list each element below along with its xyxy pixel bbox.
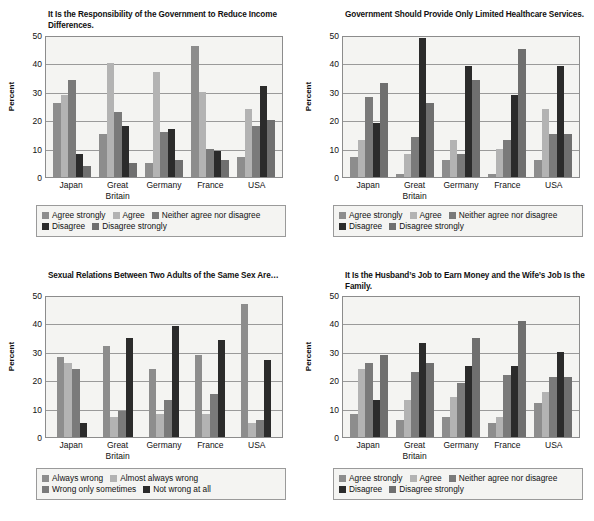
plot-area-wrapper: Percent01020304050JapanGreat BritainGerm… (0, 296, 297, 456)
bar (419, 343, 427, 437)
bar (68, 80, 76, 177)
legend-item: Disagree (339, 484, 382, 494)
bar-group (57, 297, 87, 437)
bar (465, 66, 473, 177)
bar-groups (343, 297, 579, 437)
legend-item: Disagree strongly (92, 221, 167, 231)
legend-item: Agree (410, 473, 442, 483)
bar (488, 423, 496, 437)
chart-figure-grid: It Is the Responsibility of the Governme… (0, 0, 594, 521)
legend-label: Wrong only sometimes (52, 484, 136, 494)
chart-legend: Agree stronglyAgreeNeither agree nor dis… (36, 205, 286, 237)
bar (534, 160, 542, 177)
bar (199, 92, 207, 177)
bar (450, 397, 458, 437)
bar (442, 417, 450, 437)
bar (241, 304, 249, 437)
bar-groups (343, 37, 579, 177)
x-tick-label: Japan (48, 440, 94, 461)
bar (411, 372, 419, 437)
bar (350, 414, 358, 437)
x-tick-label: Great Britain (95, 440, 141, 461)
legend-label: Agree strongly (349, 473, 403, 483)
legend-label: Disagree (349, 484, 382, 494)
y-axis-label: Percent (304, 327, 313, 387)
x-tick-label: Germany (141, 440, 187, 461)
legend-item: Agree strongly (339, 210, 403, 220)
bar (218, 340, 226, 437)
bar-group (237, 37, 275, 177)
bar (404, 400, 412, 437)
legend-item: Agree (113, 210, 145, 220)
legend-item: Disagree (339, 221, 382, 231)
y-tick-label: 10 (20, 146, 42, 154)
y-tick-label: 40 (20, 320, 42, 328)
bar-group (350, 297, 388, 437)
y-tick-label: 0 (20, 434, 42, 442)
bar (76, 154, 84, 177)
bar (110, 417, 118, 437)
legend-swatch-icon (152, 212, 159, 219)
bar (210, 394, 218, 437)
legend-label: Neither agree nor disagree (459, 210, 558, 220)
bar-group (396, 37, 434, 177)
legend-swatch-icon (42, 223, 49, 230)
x-tick-label: Germany (141, 180, 187, 201)
bar-group (145, 37, 183, 177)
bar-group (488, 297, 526, 437)
bar (496, 149, 504, 177)
legend-swatch-icon (110, 475, 117, 482)
y-tick-label: 10 (317, 406, 339, 414)
chart-legend: Agree stronglyAgreeNeither agree nor dis… (333, 205, 583, 237)
legend-swatch-icon (339, 486, 346, 493)
x-tick-label: France (187, 440, 233, 461)
chart-panel-sexual-relations-same-sex: Sexual Relations Between Two Adults of t… (0, 260, 297, 521)
x-tick-label: France (484, 180, 530, 201)
legend-item: Agree (410, 210, 442, 220)
x-axis-labels: JapanGreat BritainGermanyFranceUSA (342, 180, 580, 201)
bar (511, 366, 519, 437)
legend-label: Disagree strongly (399, 221, 464, 231)
bar-group (149, 297, 179, 437)
bar-groups (46, 37, 282, 177)
bar (564, 377, 572, 437)
bar (442, 160, 450, 177)
bar (126, 338, 134, 437)
legend-swatch-icon (410, 475, 417, 482)
plot-area-wrapper: Percent01020304050JapanGreat BritainGerm… (297, 36, 594, 196)
bar (488, 174, 496, 177)
bar (214, 151, 222, 177)
bar-groups (46, 297, 282, 437)
bar-group (534, 297, 572, 437)
bar (252, 126, 260, 177)
bar (175, 160, 183, 177)
x-axis-labels: JapanGreat BritainGermanyFranceUSA (45, 440, 283, 461)
legend-swatch-icon (449, 212, 456, 219)
x-tick-label: Japan (48, 180, 94, 201)
chart-legend: Always wrongAlmost always wrongWrong onl… (36, 468, 286, 500)
legend-label: Neither agree nor disagree (162, 210, 261, 220)
legend-swatch-icon (42, 212, 49, 219)
bar (542, 392, 550, 437)
bar-group (53, 37, 91, 177)
bar (118, 411, 126, 437)
bar (564, 134, 572, 177)
legend-label: Agree (420, 473, 442, 483)
bar-group (195, 297, 225, 437)
chart-title: Government Should Provide Only Limited H… (345, 9, 586, 20)
y-tick-label: 10 (317, 146, 339, 154)
bar (107, 63, 115, 177)
bar (503, 140, 511, 177)
y-axis-ticks: 01020304050 (313, 36, 339, 178)
bar (172, 326, 180, 437)
legend-swatch-icon (339, 223, 346, 230)
bar (557, 66, 565, 177)
legend-label: Agree strongly (349, 210, 403, 220)
chart-title: It Is the Husband’s Job to Earn Money an… (345, 270, 586, 292)
bar (64, 363, 72, 437)
plot-area (45, 36, 283, 178)
legend-swatch-icon (42, 475, 49, 482)
bar (542, 109, 550, 177)
bar (72, 369, 80, 437)
bar (256, 420, 264, 437)
